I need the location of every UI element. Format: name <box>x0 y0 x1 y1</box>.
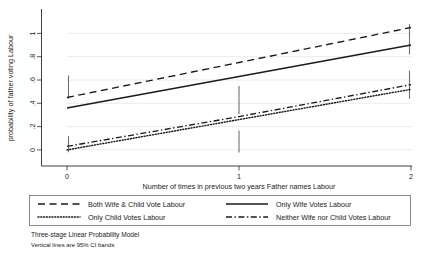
x-tick-label-2: 2 <box>409 172 413 181</box>
linear-probability-chart: 1 .8 .6 .4 .2 0 probability of father vo… <box>0 0 421 256</box>
note-model: Three-stage Linear Probability Model <box>31 231 140 239</box>
legend-label-neither: Neither Wife nor Child Votes Labour <box>276 213 391 222</box>
legend-label-only-wife: Only Wife Votes Labour <box>276 200 352 209</box>
y-tick-label-1: 1 <box>28 31 37 35</box>
legend-label-only-child: Only Child Votes Labour <box>88 213 166 222</box>
note-ci: Vertical lines are 95% CI bands <box>31 242 114 248</box>
y-tick-label-06: .6 <box>28 77 37 83</box>
y-axis-title: probability of father voting Labour <box>6 34 15 141</box>
y-tick-label-04: .4 <box>28 100 37 106</box>
y-tick-label-08: .8 <box>28 54 37 60</box>
x-tick-label-0: 0 <box>65 172 69 181</box>
legend-label-both-wife-and-child: Both Wife & Child Vote Labour <box>88 200 186 209</box>
y-tick-label-0: 0 <box>28 148 37 152</box>
x-tick-label-1: 1 <box>237 172 241 181</box>
x-axis-title: Number of times in previous two years Fa… <box>143 182 337 191</box>
y-tick-label-02: .2 <box>28 124 37 130</box>
chart-figure: 1 .8 .6 .4 .2 0 probability of father vo… <box>0 0 421 256</box>
